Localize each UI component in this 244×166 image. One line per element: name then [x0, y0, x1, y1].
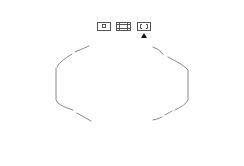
outline-segment-bottom-right-lower — [153, 117, 162, 120]
outline-segment-top-left-lower — [57, 54, 72, 67]
viewport-outline — [0, 0, 244, 166]
outline-segment-left — [56, 68, 73, 110]
outline-segment-top-left-upper — [75, 46, 89, 52]
outline-segment-bottom-right-upper — [165, 111, 172, 115]
outline-segment-right — [168, 57, 188, 110]
outline-segment-top-right-upper — [153, 47, 163, 54]
outline-segment-bottom-left — [77, 113, 91, 121]
